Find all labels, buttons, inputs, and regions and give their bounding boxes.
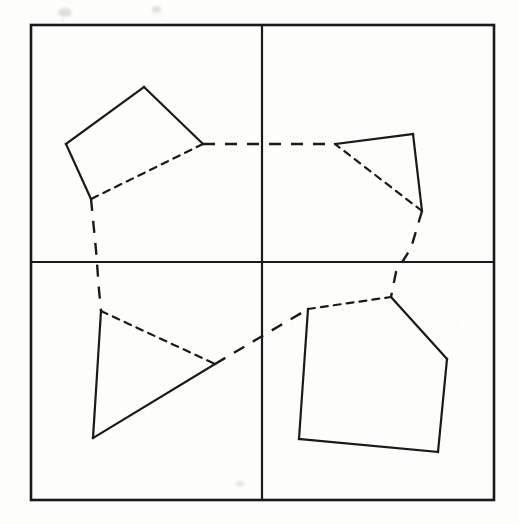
pentagon-bottom-right-edge-2-solid <box>391 297 447 359</box>
triangle-bottom-left-edge-1-dashed <box>101 311 215 364</box>
figure-container <box>0 0 519 524</box>
quadrant-polygon-diagram <box>0 0 519 524</box>
pentagon-bottom-right-edge-3-solid <box>438 359 447 452</box>
quadrilateral-top-left-edge-1-solid <box>144 87 203 144</box>
pentagon-bottom-right-edge-5-solid <box>299 309 308 439</box>
triangle-bottom-left <box>93 311 215 438</box>
pentagon-bottom-right <box>299 297 447 452</box>
quadrant-dividers <box>31 25 494 500</box>
triangle-bottom-left-edge-2-solid <box>93 364 215 438</box>
connector-topright-to-bottomright <box>391 211 422 297</box>
quadrant-polygons <box>66 87 447 452</box>
triangle-top-right-edge-2-solid <box>413 134 422 211</box>
connector-topleft-to-bottomleft <box>91 199 101 311</box>
triangle-top-right <box>335 134 422 211</box>
triangle-bottom-left-edge-3-solid <box>93 311 101 438</box>
quadrilateral-top-left-edge-4-solid <box>66 87 144 144</box>
quadrilateral-top-left-edge-2-dashed <box>91 144 203 199</box>
triangle-top-right-edge-1-solid <box>335 134 413 144</box>
triangle-top-right-edge-3-dashed <box>335 144 422 211</box>
pentagon-bottom-right-edge-4-solid <box>299 439 438 452</box>
quadrilateral-top-left <box>66 87 203 199</box>
dashed-connectors <box>91 144 422 364</box>
quadrilateral-top-left-edge-3-solid <box>66 144 91 199</box>
pentagon-bottom-right-edge-1-dashed <box>308 297 391 309</box>
